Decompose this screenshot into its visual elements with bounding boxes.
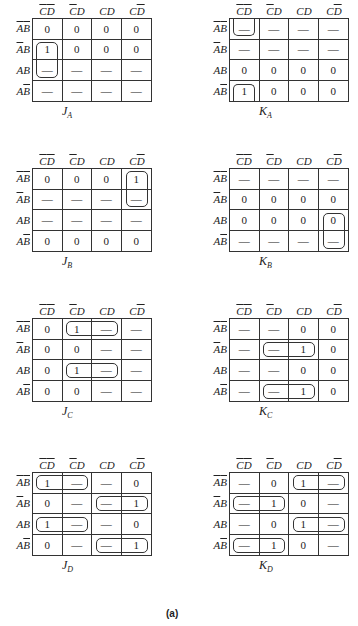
row-header: AB — [2, 64, 30, 76]
row-header: AB — [199, 85, 227, 97]
kmap-cell: — — [230, 19, 260, 40]
row-header: AB — [199, 539, 227, 551]
kmap-cell: — — [319, 494, 349, 515]
kmap-cell: 0 — [230, 190, 260, 211]
kmap-cell: 0 — [230, 60, 260, 81]
kmap-kc: CDCDCDCDABABABAB——00——10——00——10KC — [199, 304, 358, 424]
kmap-cell: 0 — [33, 360, 63, 381]
row-header: AB — [2, 43, 30, 55]
kmap-grid: 0001————————0000 — [32, 168, 152, 252]
kmap-cell: — — [289, 169, 319, 190]
kmap-cell: 0 — [319, 360, 349, 381]
kmap-cell: — — [92, 319, 122, 340]
kmap-cell: — — [92, 473, 122, 494]
kmap-cell: 0 — [289, 494, 319, 515]
kmap-cell: — — [230, 40, 260, 61]
kmap-cell: — — [33, 60, 63, 81]
kmap-kb: CDCDCDCDABABABAB————00000000————KB — [199, 154, 358, 274]
column-header: CD — [32, 154, 62, 168]
row-header: AB — [199, 322, 227, 334]
kmap-cell: 0 — [33, 231, 63, 252]
row-header: AB — [199, 518, 227, 530]
kmap-cell: 0 — [92, 231, 122, 252]
kmap-jd: CDCDCDCDABABABAB1——00——11——00——1JD — [2, 458, 172, 578]
kmap-cell: — — [63, 494, 93, 515]
kmap-cell: 1 — [33, 473, 63, 494]
column-headers: CDCDCDCD — [229, 458, 349, 472]
kmap-grid: 00001000———————— — [32, 18, 152, 102]
kmap-cell: — — [260, 360, 290, 381]
kmap-cell: 1 — [230, 81, 260, 102]
kmap-cell: — — [122, 381, 152, 402]
kmap-cell: 0 — [319, 340, 349, 361]
row-header: AB — [2, 364, 30, 376]
kmap-cell: — — [63, 190, 93, 211]
kmap-cell: — — [230, 381, 260, 402]
kmap-cell: — — [260, 19, 290, 40]
row-header: AB — [2, 214, 30, 226]
kmap-cell: — — [92, 360, 122, 381]
kmap-cell: 0 — [33, 19, 63, 40]
kmap-cell: — — [122, 319, 152, 340]
kmap-cell: — — [260, 340, 290, 361]
kmap-cell: 0 — [33, 169, 63, 190]
row-header: AB — [2, 539, 30, 551]
column-header: CD — [289, 154, 319, 168]
column-header: CD — [319, 304, 349, 318]
kmap-cell: 0 — [122, 40, 152, 61]
row-header: AB — [2, 497, 30, 509]
kmap-cell: — — [260, 381, 290, 402]
column-header: CD — [229, 304, 259, 318]
kmap-grid: ——00——10——00——10 — [229, 318, 349, 402]
kmap-cell: — — [260, 231, 290, 252]
kmap-cell: — — [319, 231, 349, 252]
kmap-cell: 0 — [122, 231, 152, 252]
column-header: CD — [62, 154, 92, 168]
kmap-cell: 0 — [319, 381, 349, 402]
kmap-cell: 1 — [289, 340, 319, 361]
kmap-ka: CDCDCDCDABABABAB————————00001000KA — [199, 4, 358, 124]
kmap-cell: — — [230, 514, 260, 535]
kmap-cell: 0 — [319, 210, 349, 231]
column-header: CD — [62, 458, 92, 472]
column-header: CD — [319, 4, 349, 18]
kmap-cell: 1 — [122, 535, 152, 556]
kmap-grid: —01——10——01——10— — [229, 472, 349, 556]
kmap-cell: 0 — [92, 169, 122, 190]
column-header: CD — [319, 154, 349, 168]
kmap-cell: 1 — [260, 494, 290, 515]
column-header: CD — [62, 304, 92, 318]
kmap-cell: 0 — [63, 231, 93, 252]
column-header: CD — [32, 304, 62, 318]
kmap-cell: — — [122, 190, 152, 211]
kmap-cell: 0 — [260, 60, 290, 81]
kmap-cell: — — [319, 40, 349, 61]
kmap-title: JB — [62, 254, 72, 270]
column-header: CD — [92, 304, 122, 318]
kmap-cell: 0 — [289, 319, 319, 340]
kmap-cell: 1 — [122, 169, 152, 190]
kmap-cell: — — [319, 473, 349, 494]
kmap-jb: CDCDCDCDABABABAB0001————————0000JB — [2, 154, 172, 274]
kmap-cell: 0 — [260, 190, 290, 211]
kmap-title: KC — [259, 404, 272, 420]
kmap-cell: 0 — [63, 19, 93, 40]
kmap-grid: ————00000000———— — [229, 168, 349, 252]
kmap-cell: — — [92, 60, 122, 81]
kmap-title: KD — [259, 558, 273, 574]
kmap-cell: 0 — [319, 60, 349, 81]
kmap-cell: 0 — [33, 381, 63, 402]
kmap-cell: 1 — [33, 40, 63, 61]
column-header: CD — [259, 304, 289, 318]
kmap-cell: 1 — [63, 360, 93, 381]
row-header: AB — [199, 172, 227, 184]
kmap-cell: 1 — [33, 514, 63, 535]
kmap-cell: — — [319, 19, 349, 40]
kmap-cell: 0 — [260, 473, 290, 494]
column-header: CD — [92, 458, 122, 472]
kmap-cell: — — [230, 535, 260, 556]
kmap-cell: — — [319, 169, 349, 190]
column-headers: CDCDCDCD — [32, 458, 152, 472]
kmap-grid: 1——00——11——00——1 — [32, 472, 152, 556]
kmap-cell: 0 — [122, 514, 152, 535]
